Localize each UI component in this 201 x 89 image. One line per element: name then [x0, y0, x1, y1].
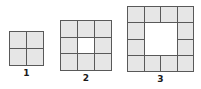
figure-3: 3	[127, 6, 194, 85]
grid-cell	[61, 54, 77, 70]
grid-cell	[61, 21, 77, 37]
grid-cell-hole	[145, 23, 177, 55]
grid-cell	[178, 23, 194, 38]
grid-cell	[128, 7, 144, 22]
grid-cell	[128, 40, 144, 55]
figure-2-grid	[60, 20, 112, 71]
grid-cell	[10, 49, 26, 65]
grid-cell	[95, 54, 111, 70]
figure-1-grid	[9, 31, 44, 66]
grid-cell	[145, 56, 161, 71]
figure-3-grid	[127, 6, 194, 72]
grid-cell	[128, 56, 144, 71]
grid-cell	[10, 32, 26, 48]
grid-cell	[161, 7, 177, 22]
grid-cell	[161, 56, 177, 71]
grid-cell	[95, 21, 111, 37]
grid-cell	[78, 21, 94, 37]
grid-cell	[128, 23, 144, 38]
grid-cell	[178, 7, 194, 22]
grid-cell	[61, 38, 77, 54]
grid-cell	[95, 38, 111, 54]
figure-2-label: 2	[83, 73, 89, 84]
grid-cell	[27, 32, 43, 48]
figure-3-label: 3	[157, 74, 163, 85]
figure-1: 1	[9, 31, 44, 79]
figure-2: 2	[60, 20, 112, 84]
grid-cell	[78, 54, 94, 70]
figure-1-label: 1	[23, 68, 29, 79]
grid-cell	[178, 56, 194, 71]
figure-sequence-diagram: 1 2	[0, 0, 201, 89]
grid-cell	[145, 7, 161, 22]
grid-cell-hole	[78, 38, 94, 54]
grid-cell	[178, 40, 194, 55]
grid-cell	[27, 49, 43, 65]
